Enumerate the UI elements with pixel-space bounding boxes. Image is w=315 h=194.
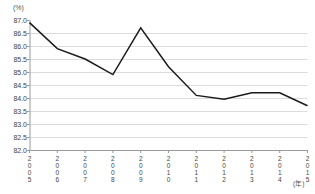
- x-axis-tick-label: 2014: [275, 155, 284, 183]
- x-axis-tick-label: 2006: [53, 155, 62, 183]
- x-axis-tick-label: 2011: [192, 155, 201, 183]
- x-axis-tick-label: 2009: [136, 155, 145, 183]
- line-chart: (%) 87.086.586.085.585.084.584.083.583.0…: [0, 0, 315, 194]
- x-axis-tick-label: 2005: [25, 155, 34, 183]
- x-axis-tick-label: 2007: [81, 155, 90, 183]
- x-axis-tick-label: 2015: [303, 155, 312, 183]
- x-axis-unit-label: (年): [293, 178, 304, 188]
- x-axis-tick-label: 2012: [220, 155, 229, 183]
- x-axis-tick-label: 2010: [164, 155, 173, 183]
- x-axis-tick-label: 2008: [108, 155, 117, 183]
- x-axis-tick-labels: 2005200620072008200920102011201220132014…: [0, 0, 315, 194]
- x-axis-tick-label: 2013: [247, 155, 256, 183]
